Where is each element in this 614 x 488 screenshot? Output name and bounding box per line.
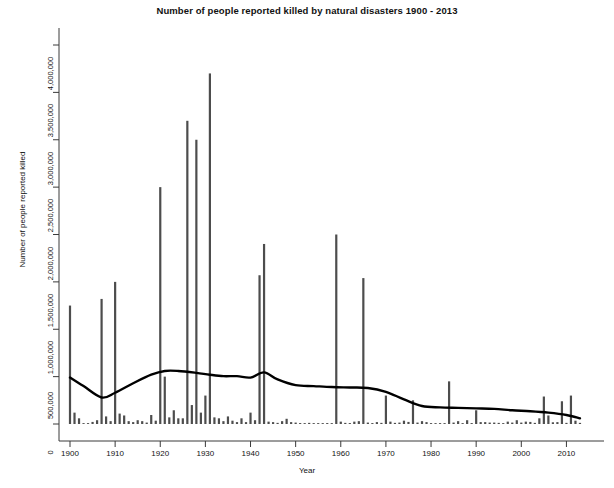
x-tick-label: 1910 [95,449,135,458]
bar [353,422,355,424]
bar [281,421,283,424]
bar [529,422,531,424]
bar [543,397,545,424]
bar [326,423,328,424]
bar [105,416,107,424]
bar [425,422,427,424]
x-tick-label: 1980 [411,449,451,458]
bar [258,275,260,424]
plot-canvas [0,0,614,488]
bar [398,423,400,424]
trend-line [70,371,580,419]
bar [534,423,536,424]
y-tick-label: 4,000,000 [46,44,55,104]
chart-figure: Number of people reported killed by natu… [0,0,614,488]
bar [430,423,432,424]
bar [191,405,193,424]
bar [195,140,197,424]
bar [538,418,540,424]
bar [525,422,527,424]
bar [552,422,554,424]
x-tick-label: 1960 [321,449,361,458]
bar [123,415,125,424]
bar [277,423,279,424]
bar [574,421,576,424]
bar [489,423,491,424]
bar [249,413,251,424]
bar [394,423,396,424]
x-tick-label: 1950 [276,449,316,458]
bar [82,423,84,424]
bar [367,423,369,424]
bar [137,420,139,424]
bar [177,418,179,424]
bar [340,422,342,424]
bar [213,417,215,424]
bar [434,423,436,424]
bar [96,420,98,424]
x-tick-label: 2000 [501,449,541,458]
bar [466,420,468,424]
bar [317,423,319,424]
bar [344,423,346,424]
x-axis-title: Year [0,466,614,475]
bar [556,422,558,424]
bar [313,423,315,424]
bar [168,417,170,424]
bar [240,418,242,424]
bar [69,306,71,424]
bar [389,422,391,424]
bar [204,396,206,424]
bar [159,187,161,424]
bar [547,415,549,424]
bar [462,423,464,424]
bar [376,422,378,424]
bar [231,421,233,424]
bar [114,282,116,424]
bar [439,423,441,424]
bar [236,422,238,424]
bar [362,278,364,424]
bar [457,421,459,424]
bar [222,421,224,424]
x-tick-label: 1930 [185,449,225,458]
bar [304,423,306,424]
bar [471,423,473,424]
bar [91,422,93,424]
bar [263,244,265,424]
bar [299,423,301,424]
bar [561,401,563,424]
y-axis-title: Number of people reported killed [18,130,27,290]
bar [78,418,80,424]
bar [403,421,405,424]
bar [110,421,112,424]
bar [358,421,360,424]
bar [407,422,409,424]
bar [308,423,310,424]
bar [371,423,373,424]
bar [448,381,450,424]
bar [380,423,382,424]
x-tick-label: 1970 [366,449,406,458]
bar [150,415,152,424]
bar [286,419,288,424]
bar [186,121,188,424]
bar [502,423,504,424]
x-tick-label: 2010 [546,449,586,458]
bar [141,421,143,424]
bar [520,423,522,424]
bar [73,413,75,424]
bar [565,423,567,424]
bar [480,422,482,424]
bar [173,410,175,424]
bar [119,414,121,424]
bar-series [69,73,581,424]
bar [453,423,455,424]
bar [349,423,351,424]
bar [331,423,333,424]
bar [335,235,337,425]
bar [516,420,518,424]
bar [200,413,202,424]
bar [245,422,247,424]
bar [484,422,486,424]
